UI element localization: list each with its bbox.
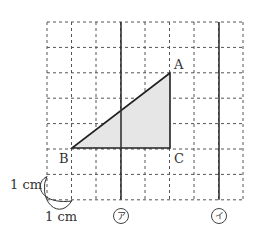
scale-label-horizontal: 1 cm	[45, 210, 77, 223]
line-label-i: イ	[211, 208, 227, 224]
point-label-a: A	[174, 58, 183, 71]
line-label-a: ア	[113, 208, 129, 224]
point-label-b: B	[59, 152, 69, 165]
point-label-c: C	[174, 152, 184, 165]
scale-label-vertical: 1 cm	[10, 178, 42, 191]
scale-brace	[44, 176, 72, 209]
grid-diagram	[0, 0, 257, 230]
